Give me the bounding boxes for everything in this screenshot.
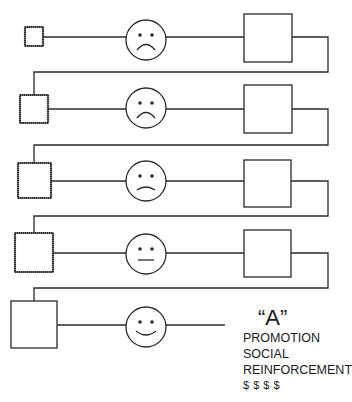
input-square-dotted-edge <box>15 233 53 272</box>
reinforcement-label: REINFORCEMENT <box>243 362 352 378</box>
eye-icon <box>150 33 154 37</box>
mouth-icon <box>137 113 155 119</box>
eye-icon <box>138 174 142 178</box>
input-square <box>20 95 48 123</box>
loop-connector <box>34 37 328 95</box>
face-neutral-icon <box>126 234 166 274</box>
eye-icon <box>138 320 142 324</box>
social-label: SOCIAL <box>243 346 352 362</box>
grade-label: “A” <box>258 306 352 330</box>
input-square <box>25 27 43 46</box>
output-box <box>244 160 291 207</box>
mouth-icon <box>137 45 155 51</box>
input-square <box>15 233 53 272</box>
face-happy-icon <box>126 307 166 347</box>
input-square-dotted-edge <box>20 95 48 123</box>
face-sad-icon <box>126 20 166 60</box>
output-box <box>244 85 292 133</box>
eye-icon <box>150 101 154 105</box>
eye-icon <box>138 247 142 251</box>
face-slightly-sad-icon <box>126 161 166 201</box>
input-square-dotted-edge <box>25 27 43 46</box>
eye-icon <box>138 33 142 37</box>
eye-icon <box>150 320 154 324</box>
loop-connector <box>34 109 328 163</box>
money-label: $ $ $ $ <box>243 378 352 393</box>
output-box <box>244 230 291 277</box>
eye-icon <box>138 101 142 105</box>
mouth-icon <box>137 187 155 190</box>
promotion-label: PROMOTION <box>243 330 352 346</box>
output-box <box>244 14 292 62</box>
eye-icon <box>150 247 154 251</box>
mouth-icon <box>136 331 156 335</box>
input-square <box>11 301 57 348</box>
input-square-dotted-edge <box>18 163 51 198</box>
outcome-label: “A” PROMOTION SOCIAL REINFORCEMENT $ $ $… <box>243 306 352 393</box>
face-sad-icon <box>126 88 166 128</box>
eye-icon <box>150 174 154 178</box>
input-square <box>18 163 51 198</box>
